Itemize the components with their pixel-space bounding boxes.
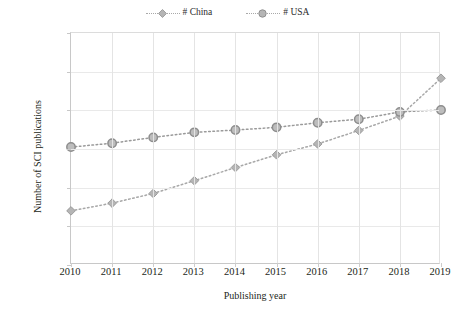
chart-container: # China # USA Number of SCI publications… [0,0,455,311]
y-axis-tickmark [67,33,71,34]
gridline-horizontal [71,110,439,111]
gridline-vertical [235,33,236,263]
data-point-china-2010[interactable] [67,207,76,216]
y-axis-tickmark [67,226,71,227]
series-line-china [71,78,441,211]
plot-area [70,32,440,264]
legend-item-china[interactable]: # China [146,8,213,19]
gridline-horizontal [71,226,439,227]
chart-legend: # China # USA [0,4,455,22]
x-axis-title: Publishing year [70,290,440,301]
gridline-vertical [194,33,195,263]
x-axis-tick-labels: 2010201120122013201420152016201720182019 [70,267,440,283]
legend-item-usa[interactable]: # USA [246,8,309,19]
series-line-usa [71,110,441,147]
y-axis-tickmark [67,188,71,189]
gridline-vertical [359,33,360,263]
y-axis-title: Number of SCI publications [32,57,43,257]
gridline-horizontal [71,72,439,73]
legend-label-china: # China [183,8,213,18]
y-axis-tickmark [67,149,71,150]
circle-marker-icon [246,8,280,19]
gridline-vertical [277,33,278,263]
gridline-vertical [400,33,401,263]
gridline-vertical [153,33,154,263]
gridline-horizontal [71,149,439,150]
x-axis-tick-label: 2019 [415,267,455,278]
data-point-usa-2010[interactable] [67,143,75,151]
y-axis-tickmark [67,110,71,111]
legend-label-usa: # USA [283,8,309,18]
gridline-vertical [112,33,113,263]
diamond-marker-icon [146,8,180,19]
gridline-horizontal [71,188,439,189]
y-axis-tickmark [67,72,71,73]
gridline-vertical [318,33,319,263]
